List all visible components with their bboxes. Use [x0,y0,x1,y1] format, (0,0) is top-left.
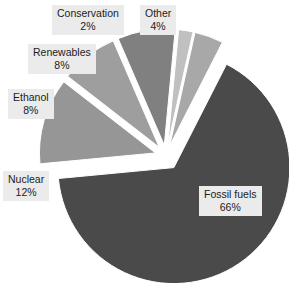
slice-label-other-name: Other [145,7,171,20]
pie-chart-figure: Conservation 2% Other 4% Renewables 8% E… [0,0,289,283]
slice-label-renewables-name: Renewables [33,46,91,59]
slice-label-ethanol: Ethanol 8% [8,89,54,119]
slice-label-renewables-value: 8% [33,59,91,72]
slice-label-conservation: Conservation 2% [52,5,124,35]
slice-label-nuclear-name: Nuclear [8,173,44,186]
slice-label-other: Other 4% [140,5,176,35]
slice-label-other-value: 4% [145,20,171,33]
slice-label-nuclear-value: 12% [8,186,44,199]
slice-label-conservation-value: 2% [57,20,119,33]
pie-chart-canvas [0,0,289,283]
slice-label-ethanol-value: 8% [13,104,49,117]
slice-label-fossil-fuels-name: Fossil fuels [204,188,257,201]
slice-label-nuclear: Nuclear 12% [3,171,49,201]
slice-label-fossil-fuels-value: 66% [204,201,257,214]
slice-label-renewables: Renewables 8% [28,44,96,74]
slice-label-fossil-fuels: Fossil fuels 66% [199,186,262,216]
slice-label-ethanol-name: Ethanol [13,91,49,104]
slice-label-conservation-name: Conservation [57,7,119,20]
